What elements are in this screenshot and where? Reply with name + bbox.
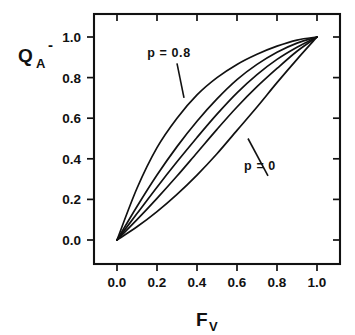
y-axis-title-superscript: - bbox=[48, 36, 53, 53]
x-tick-label: 0.6 bbox=[228, 275, 247, 290]
y-tick-label: 0.0 bbox=[62, 233, 81, 248]
x-tick-label: 0.2 bbox=[148, 275, 167, 290]
x-tick-label: 0.0 bbox=[108, 275, 127, 290]
y-tick-label: 0.8 bbox=[62, 71, 81, 86]
y-tick-label: 1.0 bbox=[62, 30, 81, 45]
x-axis-title-base: F bbox=[196, 309, 208, 330]
chart-figure: 0.00.20.40.60.81.0 0.00.20.40.60.81.0 p … bbox=[0, 0, 355, 335]
x-tick-label: 0.8 bbox=[268, 275, 287, 290]
y-tick-label: 0.6 bbox=[62, 111, 81, 126]
x-axis-title-subscript: V bbox=[209, 319, 218, 334]
y-axis-title-base: Q bbox=[18, 45, 33, 66]
annotation-label: p = 0.8 bbox=[147, 46, 190, 60]
chart-canvas: 0.00.20.40.60.81.0 0.00.20.40.60.81.0 p … bbox=[0, 0, 355, 335]
y-axis-title-subscript: A bbox=[36, 56, 46, 71]
y-tick-label: 0.4 bbox=[62, 152, 81, 167]
x-tick-label: 1.0 bbox=[308, 275, 327, 290]
x-tick-label: 0.4 bbox=[188, 275, 207, 290]
y-tick-label: 0.2 bbox=[62, 192, 81, 207]
annotation-label: p = 0 bbox=[244, 159, 276, 173]
